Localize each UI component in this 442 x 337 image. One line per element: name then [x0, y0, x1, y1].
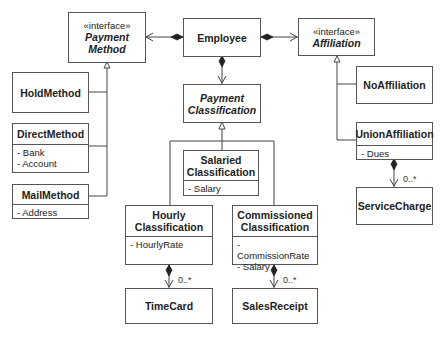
inheritance-triangle-icon — [334, 56, 340, 62]
attribute: - Address — [17, 207, 84, 218]
attribute: - Account — [17, 158, 84, 169]
attribute-list: - Bank - Account — [13, 144, 88, 171]
class-payment-classification[interactable]: Payment Classification — [183, 84, 261, 123]
class-name: HoldMethod — [20, 87, 81, 99]
stereotype-label: «interface» — [83, 20, 130, 31]
class-name: Employee — [197, 32, 247, 44]
class-hold-method[interactable]: HoldMethod — [12, 72, 89, 113]
multiplicity-label: 0..* — [178, 275, 192, 285]
class-name: Classification — [241, 221, 309, 233]
attribute: - Salary — [188, 183, 254, 194]
class-name: Payment — [85, 31, 129, 43]
stereotype-label: «interface» — [313, 26, 360, 37]
class-hourly-classification[interactable]: Hourly Classification - HourlyRate — [125, 205, 213, 265]
class-name: DirectMethod — [17, 128, 84, 140]
attribute-list: - HourlyRate — [126, 236, 212, 264]
multiplicity-label: 0..* — [283, 275, 297, 285]
class-commissioned-classification[interactable]: Commissioned Classification - Commission… — [232, 205, 318, 265]
class-name: Classification — [188, 104, 256, 116]
class-direct-method[interactable]: DirectMethod - Bank - Account — [12, 123, 89, 173]
attribute: - HourlyRate — [130, 239, 208, 250]
class-name: UnionAffiliation — [355, 128, 433, 140]
attribute: - Salary — [237, 261, 313, 272]
class-mail-method[interactable]: MailMethod - Address — [12, 184, 89, 219]
class-time-card[interactable]: TimeCard — [125, 288, 213, 324]
composition-diamond-icon — [166, 265, 172, 276]
class-name: ServiceCharge — [358, 200, 432, 212]
class-name: Payment — [200, 92, 244, 104]
composition-diamond-icon — [171, 34, 183, 40]
inheritance-triangle-icon — [219, 122, 225, 129]
class-name: Classification — [135, 221, 203, 233]
class-name: Salaried — [201, 154, 242, 166]
class-no-affiliation[interactable]: NoAffiliation — [356, 66, 433, 104]
multiplicity-label: 0..* — [403, 174, 417, 184]
class-name: NoAffiliation — [363, 79, 425, 91]
attribute-list: - Dues — [357, 145, 432, 161]
class-name: TimeCard — [145, 300, 193, 312]
composition-diamond-icon — [219, 56, 225, 67]
class-name: Affiliation — [312, 37, 360, 49]
attribute-list: - Salary — [184, 180, 258, 196]
class-name: Commissioned — [237, 209, 312, 221]
attribute-list: - CommissionRate - Salary — [233, 236, 317, 274]
class-employee[interactable]: Employee — [183, 18, 261, 57]
attribute: - Dues — [361, 148, 428, 159]
attribute-list: - Address — [13, 204, 88, 220]
class-salaried-classification[interactable]: Salaried Classification - Salary — [183, 150, 259, 196]
class-name: Method — [88, 43, 125, 55]
class-sales-receipt[interactable]: SalesReceipt — [232, 288, 318, 324]
class-name: SalesReceipt — [242, 300, 307, 312]
class-service-charge[interactable]: ServiceCharge — [356, 187, 433, 225]
attribute: - CommissionRate — [237, 239, 313, 261]
class-union-affiliation[interactable]: UnionAffiliation - Dues — [356, 122, 433, 160]
class-name: Hourly — [152, 209, 185, 221]
attribute: - Bank — [17, 147, 84, 158]
class-name: Classification — [187, 166, 255, 178]
class-affiliation[interactable]: «interface» Affiliation — [298, 18, 375, 56]
class-payment-method[interactable]: «interface» Payment Method — [68, 12, 146, 63]
class-name: MailMethod — [22, 189, 80, 201]
composition-diamond-icon — [261, 34, 273, 40]
